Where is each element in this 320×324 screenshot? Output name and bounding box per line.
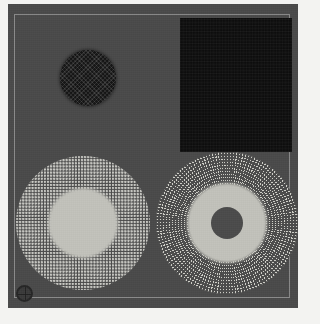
specimen-panel — [8, 4, 298, 308]
mesh-circle-shape — [60, 50, 116, 106]
image-canvas — [0, 0, 320, 324]
dark-rectangle-shape — [180, 18, 292, 152]
stipple-circle-core — [48, 188, 118, 258]
corner-registration-ring-icon — [16, 285, 33, 302]
radial-sunburst-circle-shape — [156, 152, 298, 294]
stippled-grid-circle-shape — [16, 156, 150, 290]
